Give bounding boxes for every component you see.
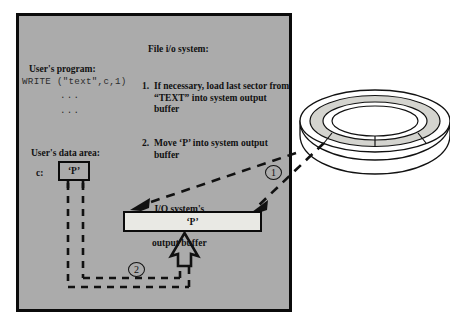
step-number: 1. [142,81,154,92]
io-output-buffer-value: ‘P’ [186,217,198,227]
program-continuation-1: ... [60,91,80,101]
program-heading: User's program: [29,64,96,75]
program-code-line: WRITE ("text",c,1) [22,77,127,87]
io-output-buffer-box: ‘P’ [123,211,262,232]
step-text: Move ‘P’ into system output buffer [154,138,292,161]
step-marker-two: 2 [128,262,145,277]
variable-label: c: [36,168,43,179]
figure-root: File i/o system: User's program: WRITE (… [0,0,450,328]
step-marker-one: 1 [265,165,282,180]
file-io-steps: 1. If necessary, load last sector from “… [142,60,292,183]
disk-platter-icon [300,90,450,174]
program-continuation-2: ... [60,106,80,116]
file-io-step: 2. Move ‘P’ into system output buffer [142,138,292,161]
file-io-step: 1. If necessary, load last sector from “… [142,81,292,116]
step-number: 2. [142,138,154,149]
pbox-connector-stubs [68,181,83,188]
step-text: If necessary, load last sector from “TEX… [154,81,292,116]
file-io-heading: File i/o system: [148,44,209,55]
user-data-variable-value: ‘P’ [68,166,80,176]
user-data-variable-box: ‘P’ [58,161,90,181]
buffer-label-line-2: output buffer [152,238,207,249]
data-area-heading: User's data area: [31,148,100,159]
